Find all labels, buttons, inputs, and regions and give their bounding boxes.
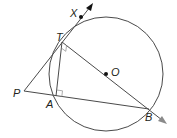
point-o-icon <box>104 72 108 76</box>
ray-tb <box>62 42 162 120</box>
label-b: B <box>145 111 152 123</box>
tangent-ray-px <box>24 7 90 91</box>
label-a: A <box>45 98 53 110</box>
point-x-icon <box>79 15 83 19</box>
secant-pb <box>24 91 149 109</box>
right-angle-t-icon <box>61 45 66 51</box>
segment-ta <box>56 42 62 96</box>
label-p: P <box>13 87 21 99</box>
arrowhead-x-icon <box>86 3 93 11</box>
arrowhead-b-icon <box>158 116 167 124</box>
label-x: X <box>69 7 78 19</box>
geometry-diagram: X T O P A B <box>0 0 177 138</box>
label-o: O <box>111 66 120 78</box>
